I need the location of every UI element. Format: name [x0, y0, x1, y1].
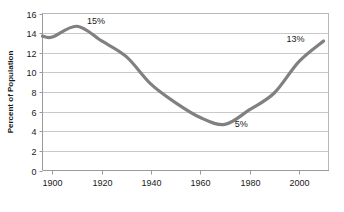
y-tick-label-0: 0	[31, 167, 36, 177]
x-tick-label-1900: 1900	[42, 178, 62, 188]
y-tick-label-12: 12	[26, 49, 36, 59]
y-tick-label-8: 8	[31, 88, 36, 98]
x-tick-label-2000: 2000	[289, 178, 309, 188]
x-tick-label-1980: 1980	[240, 178, 260, 188]
y-tick-label-16: 16	[26, 10, 36, 20]
y-axis-title: Percent of Population	[6, 51, 15, 134]
y-tick-label-2: 2	[31, 147, 36, 157]
annotation-13pct: 13%	[287, 34, 305, 44]
x-tick-label-1940: 1940	[141, 178, 161, 188]
x-tick-label-1920: 1920	[92, 178, 112, 188]
x-tick-label-1960: 1960	[190, 178, 210, 188]
annotation-15pct: 15%	[87, 16, 105, 26]
y-tick-label-10: 10	[26, 68, 36, 78]
y-tick-label-14: 14	[26, 29, 36, 39]
annotation-5pct: 5%	[235, 119, 248, 129]
y-tick-label-4: 4	[31, 127, 36, 137]
y-tick-label-6: 6	[31, 108, 36, 118]
line-chart: 0246810121416 190019201940196019802000 1…	[0, 0, 344, 212]
chart-container: 0246810121416 190019201940196019802000 1…	[0, 0, 344, 212]
